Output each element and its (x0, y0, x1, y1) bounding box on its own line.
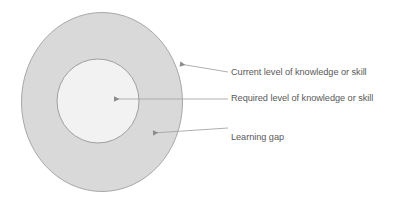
callout-label-required-level: Required level of knowledge or skill (231, 92, 383, 106)
callout-label-learning-gap: Learning gap (231, 131, 399, 145)
callout-label-current-level: Current level of knowledge or skill (231, 66, 399, 80)
callout-labels: Current level of knowledge or skill Requ… (0, 0, 401, 203)
diagram-canvas: Current level of knowledge or skill Requ… (0, 0, 401, 203)
